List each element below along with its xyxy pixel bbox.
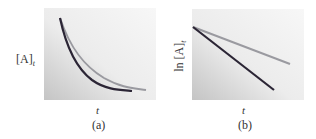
y-axis-label-text: ln [A] [172,43,186,72]
plot-area-b [192,9,304,100]
chart-b-svg [192,9,304,100]
x-axis-label-a: t [96,104,99,116]
y-axis-label-b: ln [A]t [172,34,188,78]
plot-area-a [44,8,156,100]
caption-a: (a) [92,118,105,133]
chart-a-svg [44,8,156,100]
y-axis-label-subscript: t [33,59,35,68]
caption-b: (b) [238,118,252,133]
y-axis-label-a: [A]t [16,52,35,68]
plot-background [192,9,304,100]
y-axis-label-subscript: t [179,41,188,43]
y-axis-label-text: [A] [16,52,33,66]
x-axis-label-b: t [242,104,245,116]
